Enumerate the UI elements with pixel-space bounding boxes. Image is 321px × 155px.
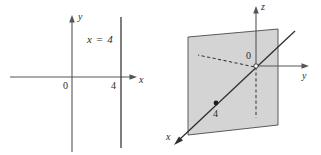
equation-label-x-equals-4: x = 4 bbox=[86, 33, 113, 45]
figure-root: y x 0 4 x = 4 bbox=[0, 0, 321, 155]
y-axis-label-3d: y bbox=[301, 70, 307, 81]
tick-label-4-2d: 4 bbox=[111, 80, 116, 91]
x-axis-arrowhead bbox=[130, 74, 138, 80]
y-axis-arrowhead bbox=[302, 63, 310, 69]
svg-2d: y x 0 4 x = 4 bbox=[0, 0, 160, 155]
y-axis-2d bbox=[69, 15, 75, 152]
y-axis-label: y bbox=[77, 11, 83, 22]
origin-marker-3d bbox=[254, 64, 258, 68]
y-axis-arrowhead bbox=[69, 15, 75, 23]
panel-2d-plot: y x 0 4 x = 4 bbox=[0, 0, 160, 155]
x-axis-label-3d: x bbox=[165, 131, 171, 142]
svg-3d: z y x 0 4 bbox=[160, 0, 321, 155]
x-axis-2d bbox=[10, 74, 137, 80]
point-marker-4-3d bbox=[214, 101, 219, 106]
z-axis-arrowhead bbox=[253, 6, 259, 14]
point-label-4-3d: 4 bbox=[213, 108, 218, 119]
z-axis-label: z bbox=[260, 1, 265, 12]
panel-3d-plot: z y x 0 4 bbox=[160, 0, 321, 155]
x-axis-label: x bbox=[138, 74, 144, 85]
origin-label-3d: 0 bbox=[246, 50, 251, 61]
origin-label-2d: 0 bbox=[63, 80, 68, 91]
